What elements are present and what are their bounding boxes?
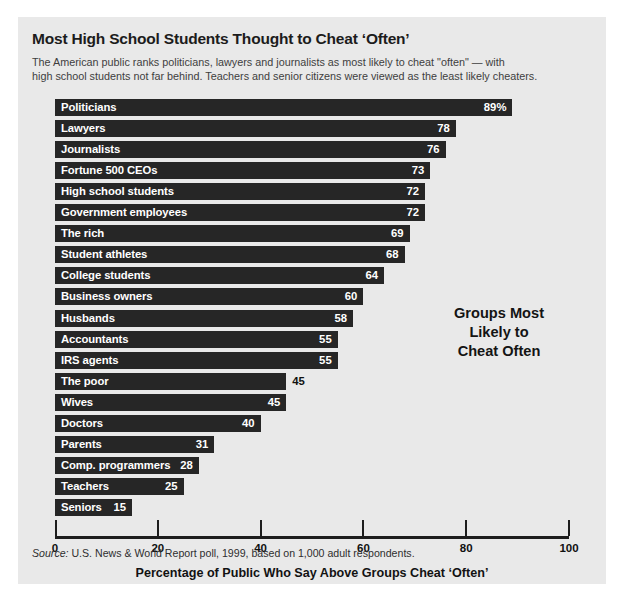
bar-category-label: Lawyers	[61, 120, 106, 137]
x-axis-tick-label: 100	[559, 542, 578, 554]
bar-category-label: Parents	[61, 436, 102, 453]
bar-category-label: Seniors	[61, 499, 102, 516]
bar-value-label: 15	[114, 499, 127, 516]
bar-row: The poor45	[32, 373, 592, 390]
x-axis-line	[55, 536, 569, 539]
x-axis-end-cap	[568, 520, 570, 536]
bar-category-label: Business owners	[61, 288, 152, 305]
source-note: Source: U.S. News & World Report poll, 1…	[32, 547, 415, 559]
bar-row: Lawyers78	[32, 120, 592, 137]
bar-category-label: IRS agents	[61, 352, 118, 369]
infographic-panel: Most High School Students Thought to Che…	[18, 17, 606, 584]
bar-value-label: 55	[319, 331, 332, 348]
bar-row: The rich69	[32, 225, 592, 242]
bar-value-label: 25	[165, 478, 178, 495]
bar-value-label: 69	[391, 225, 404, 242]
bar-category-label: Husbands	[61, 310, 115, 327]
bar-value-label: 58	[335, 310, 348, 327]
bar-category-label: Government employees	[61, 204, 187, 221]
bar-row: Seniors15	[32, 499, 592, 516]
bar-row: Parents31	[32, 436, 592, 453]
x-axis-tick	[465, 520, 467, 536]
bar-row: Business owners60	[32, 288, 592, 305]
bar-category-label: Wives	[61, 394, 93, 411]
bar-value-label: 73	[412, 162, 425, 179]
x-axis-end-cap	[55, 520, 57, 536]
x-axis-tick-label: 80	[460, 542, 473, 554]
bar-category-label: Fortune 500 CEOs	[61, 162, 157, 179]
annotation-line-2: Likely to	[414, 323, 584, 342]
bar-value-label: 68	[386, 246, 399, 263]
bar-value-label: 64	[365, 267, 378, 284]
bar-row: High school students72	[32, 183, 592, 200]
subtitle-line-1: The American public ranks politicians, l…	[32, 55, 592, 69]
bar-row: Student athletes68	[32, 246, 592, 263]
bar-category-label: Student athletes	[61, 246, 147, 263]
bar-row: Fortune 500 CEOs73	[32, 162, 592, 179]
bar-category-label: College students	[61, 267, 150, 284]
bar-value-label: 45	[268, 394, 281, 411]
bar-row: Doctors40	[32, 415, 592, 432]
x-axis-tick	[362, 520, 364, 536]
page-title: Most High School Students Thought to Che…	[32, 30, 409, 48]
bar-category-label: High school students	[61, 183, 174, 200]
x-axis-tick	[260, 520, 262, 536]
bar-value-label: 55	[319, 352, 332, 369]
bar-value-label: 78	[437, 120, 450, 137]
bar	[55, 120, 456, 137]
bar-row: Journalists76	[32, 141, 592, 158]
bar-row: Comp. programmers28	[32, 457, 592, 474]
bar-category-label: Doctors	[61, 415, 103, 432]
annotation-line-1: Groups Most	[414, 304, 584, 323]
bar-value-label: 31	[196, 436, 209, 453]
source-text: U.S. News & World Report poll, 1999, bas…	[69, 547, 415, 559]
annotation-line-3: Cheat Often	[414, 342, 584, 361]
bar-value-label: 45	[292, 373, 305, 390]
source-label: Source:	[32, 547, 69, 559]
x-axis-title: Percentage of Public Who Say Above Group…	[32, 566, 592, 580]
subtitle: The American public ranks politicians, l…	[32, 55, 592, 84]
bar-value-label: 89%	[484, 99, 507, 116]
bar-category-label: Journalists	[61, 141, 120, 158]
bar-chart-plot-area: Politicians89%Lawyers78Journalists76Fort…	[32, 98, 592, 520]
bar-value-label: 60	[345, 288, 358, 305]
bar-value-label: 72	[407, 204, 420, 221]
bar-value-label: 76	[427, 141, 440, 158]
bar-value-label: 40	[242, 415, 255, 432]
bar-row: Teachers25	[32, 478, 592, 495]
bar-row: Wives45	[32, 394, 592, 411]
bar-category-label: Accountants	[61, 331, 128, 348]
bar-category-label: Comp. programmers	[61, 457, 170, 474]
bar-category-label: The rich	[61, 225, 104, 242]
bar-value-label: 28	[180, 457, 193, 474]
bar-value-label: 72	[407, 183, 420, 200]
bar-row: Politicians89%	[32, 99, 592, 116]
bar	[55, 99, 512, 116]
bar-category-label: Politicians	[61, 99, 116, 116]
bar-category-label: Teachers	[61, 478, 109, 495]
subtitle-line-2: high school students not far behind. Tea…	[32, 69, 592, 83]
bar	[55, 225, 410, 242]
x-axis-tick	[157, 520, 159, 536]
bar-row: College students64	[32, 267, 592, 284]
bar-row: Government employees72	[32, 204, 592, 221]
bar-category-label: The poor	[61, 373, 109, 390]
chart-annotation: Groups Most Likely to Cheat Often	[414, 304, 584, 361]
